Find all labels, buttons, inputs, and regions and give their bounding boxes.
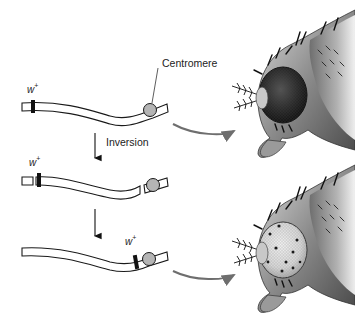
fly-head-mottled bbox=[232, 165, 355, 312]
w-plus-label-original: w+ bbox=[27, 84, 38, 95]
centromere-label: Centromere bbox=[162, 57, 217, 69]
chromosome-original bbox=[22, 68, 168, 126]
curved-arrow-to-wildtype-eye bbox=[173, 124, 234, 134]
centromere-circle bbox=[143, 253, 156, 266]
fly-head-wildtype bbox=[232, 10, 355, 157]
chromosome-broken bbox=[22, 173, 168, 199]
curved-arrow-to-mottled-eye bbox=[173, 271, 234, 279]
w-plus-gene-band bbox=[31, 100, 35, 113]
w-plus-label-inverted: w+ bbox=[125, 236, 136, 247]
centromere-circle bbox=[144, 104, 157, 117]
centromere-circle bbox=[147, 179, 160, 192]
inversion-label: Inversion bbox=[106, 136, 149, 148]
antenna-arista bbox=[232, 83, 259, 111]
centromere-leader-line bbox=[152, 68, 158, 103]
inversion-diagram: Centromere Inversion w+ w+ w+ bbox=[0, 0, 355, 328]
w-plus-gene-band bbox=[37, 173, 41, 187]
chromosome-inverted bbox=[22, 248, 168, 272]
w-plus-label-broken: w+ bbox=[29, 157, 40, 168]
antenna-arista bbox=[232, 238, 259, 266]
